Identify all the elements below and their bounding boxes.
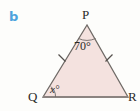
tick-mark-side-pq <box>59 55 66 62</box>
tick-mark-side-pr <box>106 55 113 62</box>
vertex-label-r: R <box>128 90 137 103</box>
geometry-figure: b P Q R 70° x° <box>0 0 140 111</box>
angle-label-p: 70° <box>74 40 91 52</box>
vertex-label-q: Q <box>28 90 37 103</box>
part-label-b: b <box>9 8 25 26</box>
vertex-label-p: P <box>82 8 89 21</box>
angle-label-q: x° <box>50 84 59 95</box>
